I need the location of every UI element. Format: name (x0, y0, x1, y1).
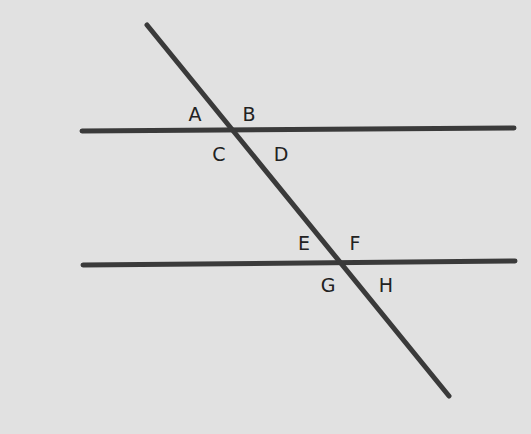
angle-label-c: C (212, 145, 225, 164)
angle-label-g: G (321, 276, 336, 295)
angle-label-h: H (379, 276, 393, 295)
angle-label-b: B (242, 105, 255, 124)
diagram-lines (0, 0, 531, 434)
transversal-line (147, 25, 449, 396)
diagram-canvas: A B C D E F G H (0, 0, 531, 434)
parallel-line-top (82, 128, 514, 131)
parallel-line-bottom (83, 261, 515, 265)
angle-label-d: D (274, 145, 289, 164)
angle-label-e: E (298, 234, 310, 253)
angle-label-a: A (189, 105, 202, 124)
angle-label-f: F (350, 234, 361, 253)
